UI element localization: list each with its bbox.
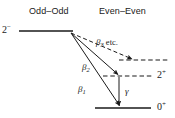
transition-label-beta1-subscript: 1	[82, 88, 85, 95]
level-label-ground-parity: +	[162, 100, 166, 108]
level-label-parent: 2−	[2, 25, 11, 35]
level-label-first-excited: 2+	[157, 70, 166, 80]
decay-level-diagram: Odd–Odd Even–Even 2− 2+ 0+ β3 etc. β2 β1…	[0, 0, 175, 118]
transition-label-beta3-suffix: etc.	[104, 37, 118, 47]
transition-label-beta3-subscript: 3	[100, 41, 103, 48]
transition-label-beta3: β3 etc.	[96, 38, 118, 47]
transition-label-gamma-symbol: γ	[125, 86, 129, 96]
diagram-canvas	[0, 0, 175, 118]
level-label-first-excited-parity: +	[162, 68, 166, 76]
transition-label-beta2-subscript: 2	[86, 66, 89, 73]
transition-label-beta1: β1	[78, 85, 86, 94]
transition-label-beta2: β2	[82, 63, 90, 72]
level-label-parent-parity: −	[7, 23, 11, 31]
column-header-odd-odd: Odd–Odd	[29, 7, 69, 16]
column-header-even-even: Even–Even	[99, 7, 146, 16]
transition-label-gamma: γ	[125, 87, 129, 96]
level-label-ground: 0+	[157, 102, 166, 112]
